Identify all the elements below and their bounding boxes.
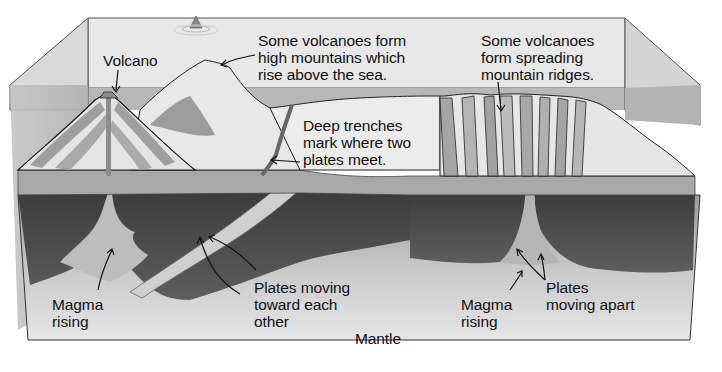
label-spreading-ridges: Some volcanoes form spreading mountain r… [481, 32, 594, 83]
label-plates-toward: Plates moving toward each other [254, 279, 350, 330]
label-high-mountains: Some volcanoes form high mountains which… [258, 32, 406, 83]
label-volcano: Volcano [103, 52, 157, 69]
label-mantle: Mantle [355, 330, 401, 347]
label-plates-apart: Plates moving apart [546, 279, 634, 313]
label-magma-rising-left: Magma rising [52, 296, 103, 330]
label-magma-rising-right: Magma rising [461, 296, 512, 330]
right-side-panel [625, 18, 700, 125]
diagram-stage: Volcano Some volcanoes form high mountai… [0, 0, 722, 372]
label-deep-trenches: Deep trenches mark where two plates meet… [303, 117, 411, 168]
